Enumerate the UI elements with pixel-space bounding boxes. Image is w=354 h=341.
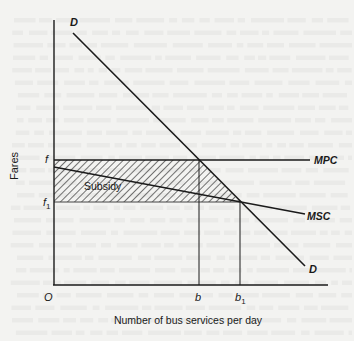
x-axis-label: Number of bus services per day — [114, 314, 263, 326]
origin-label: O — [44, 291, 53, 303]
msc-label: MSC — [307, 210, 331, 222]
fare-f-label: f — [45, 153, 49, 165]
quantity-b1-label: b1 — [235, 291, 246, 306]
demand-curve — [73, 33, 305, 266]
subsidy-label: Subsidy — [84, 180, 122, 192]
demand-label-top: D — [70, 16, 78, 28]
demand-label-bottom: D — [309, 263, 317, 275]
mpc-label: MPC — [314, 154, 338, 166]
y-axis-label: Fares — [8, 151, 20, 180]
subsidy-diagram: D D MPC MSC Subsidy f f1 O b b1 Fares Nu… — [0, 0, 354, 341]
subsidy-shaded-area — [54, 160, 240, 202]
quantity-b-label: b — [195, 291, 201, 303]
fare-f1-label: f1 — [43, 196, 51, 211]
